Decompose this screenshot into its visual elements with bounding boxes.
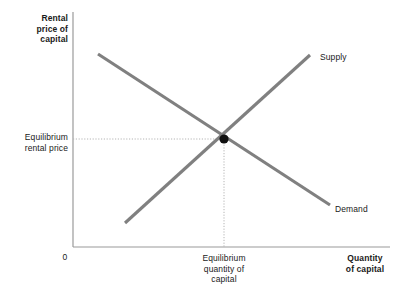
supply-demand-chart: Rental price of capital Equilibrium rent… (0, 0, 405, 301)
equilibrium-rental-price-label: Equilibrium rental price (0, 132, 68, 153)
supply-curve-label: Supply (320, 52, 380, 63)
equilibrium-point-marker (219, 134, 228, 143)
supply-curve (125, 55, 310, 223)
equilibrium-quantity-of-capital-label: Equilibrium quantity of capital (184, 253, 264, 285)
x-axis-title: Quantity of capital (330, 253, 400, 274)
origin-label: 0 (58, 252, 72, 263)
y-axis-title: Rental price of capital (0, 13, 68, 45)
demand-curve (98, 54, 330, 205)
demand-curve-label: Demand (335, 204, 395, 215)
